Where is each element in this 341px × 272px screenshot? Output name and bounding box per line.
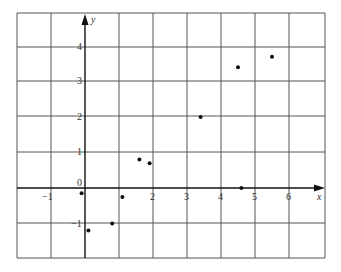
grid bbox=[17, 13, 325, 258]
x-tick-labels: 0 −1 2 3 4 5 6 bbox=[42, 177, 291, 202]
scatter-chart: x y 0 −1 2 3 4 5 6 4 3 2 1 −1 bbox=[0, 0, 341, 272]
x-tick-5: 5 bbox=[252, 191, 257, 202]
x-axis-label: x bbox=[316, 191, 322, 202]
x-tick-2: 2 bbox=[150, 191, 155, 202]
data-point bbox=[137, 158, 141, 162]
x-tick-4: 4 bbox=[218, 191, 223, 202]
x-tick-3: 3 bbox=[184, 191, 189, 202]
data-point bbox=[120, 195, 124, 199]
data-point bbox=[199, 115, 203, 119]
data-point bbox=[86, 229, 90, 233]
data-point bbox=[270, 55, 274, 59]
y-tick-neg1: −1 bbox=[71, 218, 82, 229]
y-axis-arrow-icon bbox=[82, 14, 89, 25]
x-tick-neg1: −1 bbox=[42, 191, 53, 202]
data-point bbox=[110, 222, 114, 226]
x-tick-6: 6 bbox=[286, 191, 291, 202]
axes bbox=[17, 14, 325, 258]
y-tick-2: 2 bbox=[77, 111, 82, 122]
y-axis-label: y bbox=[90, 14, 96, 25]
y-tick-3: 3 bbox=[77, 75, 82, 86]
data-point bbox=[148, 161, 152, 165]
data-point bbox=[80, 191, 84, 195]
y-tick-1: 1 bbox=[77, 146, 82, 157]
y-tick-labels: 4 3 2 1 −1 bbox=[71, 41, 82, 229]
data-point bbox=[236, 65, 240, 69]
data-point bbox=[239, 186, 243, 190]
y-tick-4: 4 bbox=[77, 41, 82, 52]
origin-label: 0 bbox=[77, 177, 82, 188]
